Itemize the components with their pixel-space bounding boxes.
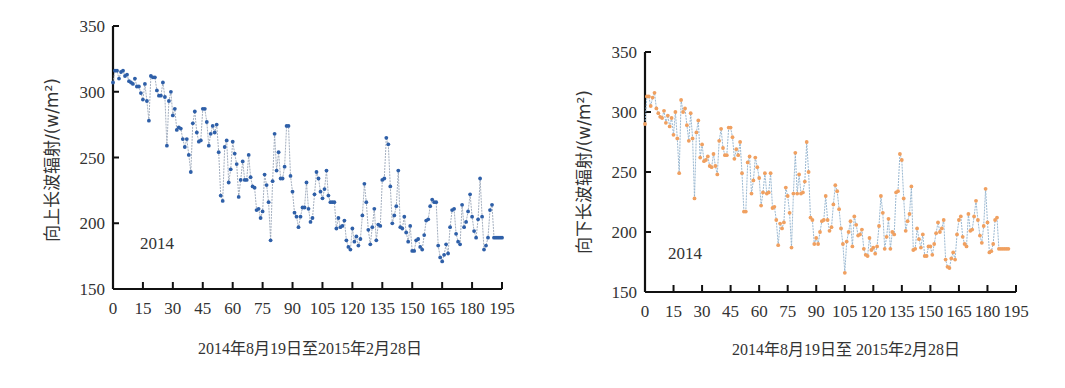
data-point xyxy=(986,221,990,225)
data-point xyxy=(283,165,287,169)
data-point xyxy=(776,243,780,247)
data-point xyxy=(687,139,691,143)
data-point xyxy=(259,216,263,220)
data-point xyxy=(161,81,165,85)
data-point xyxy=(740,171,744,175)
data-point xyxy=(287,124,291,128)
data-point xyxy=(291,190,295,194)
x-tick-label: 0 xyxy=(641,302,650,321)
data-point xyxy=(299,215,303,219)
data-point xyxy=(199,139,203,143)
data-point xyxy=(402,215,406,219)
data-point xyxy=(357,244,361,248)
data-point xyxy=(725,153,729,157)
data-point xyxy=(932,242,936,246)
data-point xyxy=(944,258,948,262)
data-point xyxy=(263,173,267,177)
data-point xyxy=(717,139,721,143)
data-point xyxy=(706,155,710,159)
data-point xyxy=(862,247,866,251)
x-axis-label: 2014年8月19日至2015年2月28日 xyxy=(198,340,422,357)
data-point xyxy=(341,224,345,228)
data-point xyxy=(317,177,321,181)
data-point xyxy=(368,242,372,246)
data-point xyxy=(854,223,858,227)
data-point xyxy=(404,231,408,235)
data-point xyxy=(913,247,917,251)
data-point xyxy=(851,245,855,249)
data-point xyxy=(207,144,211,148)
data-point xyxy=(940,227,944,231)
data-point xyxy=(795,192,799,196)
data-point xyxy=(729,126,733,130)
data-point xyxy=(271,179,275,183)
data-point xyxy=(464,220,468,224)
data-point xyxy=(153,75,157,79)
data-point xyxy=(141,98,145,102)
data-point xyxy=(696,119,700,123)
data-point xyxy=(910,185,914,189)
data-point xyxy=(773,205,777,209)
data-point xyxy=(406,240,410,244)
data-point xyxy=(896,189,900,193)
data-point xyxy=(753,156,757,160)
data-point xyxy=(313,192,317,196)
data-point xyxy=(1007,247,1011,251)
data-point xyxy=(835,189,839,193)
x-tick-label: 180 xyxy=(975,302,1001,321)
data-point xyxy=(353,240,357,244)
data-point xyxy=(412,249,416,253)
data-point xyxy=(446,252,450,256)
data-point xyxy=(289,174,293,178)
data-point xyxy=(788,211,792,215)
y-tick-label: 150 xyxy=(612,283,638,302)
data-point xyxy=(223,145,227,149)
data-point xyxy=(731,135,735,139)
data-point xyxy=(422,233,426,237)
data-point xyxy=(959,215,963,219)
data-point xyxy=(349,248,353,252)
data-point xyxy=(351,227,355,231)
data-point xyxy=(972,215,976,219)
data-point xyxy=(879,194,883,198)
data-point xyxy=(209,132,213,136)
y-axis: 150200250300350 xyxy=(612,43,652,302)
x-tick-label: 105 xyxy=(310,299,336,318)
data-point xyxy=(828,229,832,233)
data-point xyxy=(929,245,933,249)
data-point xyxy=(672,133,676,137)
data-point xyxy=(858,233,862,237)
data-point xyxy=(490,203,494,207)
data-point xyxy=(428,204,432,208)
x-tick-label: 15 xyxy=(134,299,151,318)
data-point xyxy=(925,254,929,258)
data-point xyxy=(664,121,668,125)
data-point xyxy=(887,217,891,221)
data-point xyxy=(321,196,325,200)
data-point xyxy=(137,85,141,89)
data-point xyxy=(211,124,215,128)
x-tick-label: 15 xyxy=(665,302,682,321)
data-point xyxy=(394,204,398,208)
data-point xyxy=(309,220,313,224)
data-point xyxy=(237,195,241,199)
x-tick-label: 45 xyxy=(194,299,211,318)
data-point xyxy=(942,218,946,222)
x-tick-label: 60 xyxy=(751,302,768,321)
data-point xyxy=(957,218,961,222)
data-point xyxy=(227,181,231,185)
data-point xyxy=(816,242,820,246)
data-point xyxy=(231,140,235,144)
data-point xyxy=(845,240,849,244)
data-point xyxy=(683,107,687,111)
data-point xyxy=(458,242,462,246)
data-point xyxy=(488,208,492,212)
data-point xyxy=(721,146,725,150)
data-point xyxy=(679,98,683,102)
data-point xyxy=(970,228,974,232)
y-tick-label: 250 xyxy=(80,149,106,168)
data-point xyxy=(826,218,830,222)
data-point xyxy=(714,164,718,168)
data-point xyxy=(934,231,938,235)
data-point xyxy=(217,150,221,154)
